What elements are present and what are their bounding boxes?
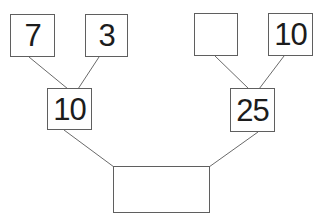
mid-left-sum-box: 10: [47, 88, 92, 130]
top-left-addend-2-box: 3: [85, 14, 128, 57]
connector-7-to-10: [29, 57, 68, 89]
top-right-addend-2-box: 10: [268, 13, 313, 56]
number-tree-diagram: 7 3 10 10 25: [0, 0, 324, 224]
top-left-addend-1-box: 7: [10, 14, 55, 57]
connector-10-to-total: [64, 130, 114, 167]
mid-right-sum-box: 25: [230, 88, 275, 132]
top-right-addend-1-empty-box[interactable]: [194, 13, 238, 56]
connector-25-to-total: [209, 132, 258, 167]
connector-blank-to-25: [215, 56, 249, 89]
bottom-total-empty-box[interactable]: [113, 166, 210, 213]
connector-3-to-10: [78, 57, 99, 89]
connector-10-to-25: [259, 56, 284, 89]
